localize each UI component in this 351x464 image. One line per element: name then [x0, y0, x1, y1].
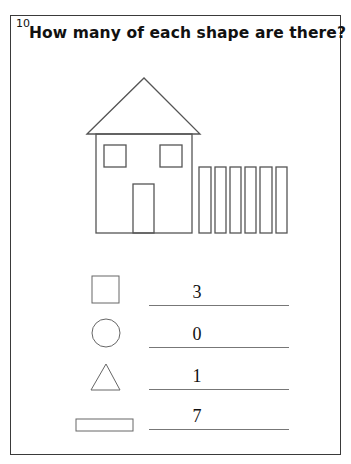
answer-triangles[interactable]: 1	[127, 366, 267, 387]
circle-icon	[92, 319, 120, 347]
right-window-square-icon	[160, 145, 182, 167]
triangle-icon	[91, 364, 120, 390]
fence-post-icon	[245, 167, 256, 233]
fence-post-icon	[199, 167, 211, 233]
fence-post-icon	[276, 167, 287, 233]
answer-rectangles[interactable]: 7	[127, 406, 267, 427]
left-window-square-icon	[104, 145, 126, 167]
answer-circles[interactable]: 0	[127, 324, 267, 345]
fence-post-icon	[215, 167, 226, 233]
rectangle-icon	[76, 419, 133, 431]
square-icon	[92, 276, 119, 303]
roof-triangle-icon	[87, 78, 200, 134]
fence-post-icon	[260, 167, 272, 233]
answer-squares[interactable]: 3	[127, 282, 267, 303]
answer-line	[149, 429, 289, 430]
answer-line	[149, 389, 289, 390]
door-rectangle-icon	[133, 184, 154, 233]
house-picture	[0, 0, 351, 464]
answer-line	[149, 305, 289, 306]
answer-line	[149, 347, 289, 348]
fence-post-icon	[230, 167, 241, 233]
